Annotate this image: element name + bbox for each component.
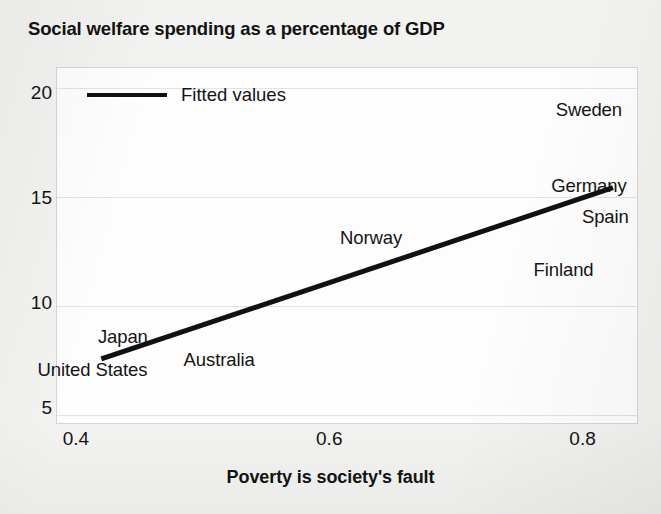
x-tick-label-0.4: 0.4 bbox=[63, 428, 89, 450]
plot-area: Fitted values SwedenGermanySpainFinlandN… bbox=[57, 68, 637, 423]
y-tick-label-15: 15 bbox=[12, 187, 52, 209]
y-axis: 5101520 bbox=[8, 68, 52, 423]
x-tick-label-0.6: 0.6 bbox=[316, 428, 342, 450]
data-point-united-states: United States bbox=[38, 359, 148, 381]
data-point-japan: Japan bbox=[98, 326, 148, 348]
y-tick-label-5: 5 bbox=[12, 397, 52, 419]
x-axis-title: Poverty is society's fault bbox=[0, 467, 661, 488]
y-tick-label-20: 20 bbox=[12, 82, 52, 104]
chart-title: Social welfare spending as a percentage … bbox=[28, 18, 445, 40]
data-point-spain: Spain bbox=[582, 206, 629, 228]
x-tick-label-0.8: 0.8 bbox=[569, 428, 595, 450]
data-point-australia: Australia bbox=[184, 349, 255, 371]
data-point-germany: Germany bbox=[551, 175, 626, 197]
data-point-finland: Finland bbox=[534, 259, 594, 281]
y-tick-label-10: 10 bbox=[12, 292, 52, 314]
plot-panel: Fitted values SwedenGermanySpainFinlandN… bbox=[57, 68, 637, 423]
x-axis: 0.40.60.8 bbox=[0, 428, 661, 454]
data-point-sweden: Sweden bbox=[556, 99, 622, 121]
data-point-norway: Norway bbox=[340, 227, 402, 249]
